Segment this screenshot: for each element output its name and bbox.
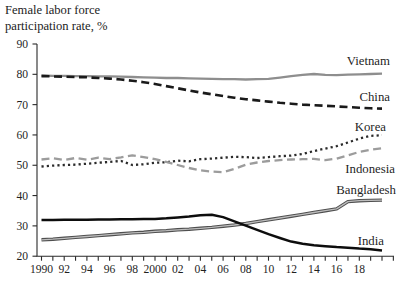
- label-korea: Korea: [355, 120, 387, 134]
- x-tick-label: 92: [58, 263, 70, 276]
- y-tick-label: 50: [16, 159, 28, 172]
- label-bangladesh: Bangladesh: [336, 183, 396, 197]
- y-tick-label: 40: [16, 190, 28, 203]
- x-tick-label: 94: [81, 263, 93, 276]
- x-tick-label: 02: [172, 263, 184, 276]
- y-tick-label: 20: [16, 250, 28, 263]
- x-tick-label: 14: [308, 263, 320, 276]
- x-tick-label: 2000: [143, 263, 166, 276]
- line-china: [42, 76, 383, 109]
- label-indonesia: Indonesia: [345, 162, 395, 176]
- chart-figure: Female labor force participation rate, %…: [0, 0, 399, 288]
- line-india: [42, 215, 383, 251]
- x-tick-label: 96: [104, 263, 116, 276]
- x-tick-label: 98: [127, 263, 139, 276]
- x-tick-label: 16: [331, 263, 343, 276]
- x-tick-label: 04: [195, 263, 207, 276]
- y-tick-label: 80: [16, 68, 28, 81]
- line-korea: [42, 135, 383, 166]
- line-chart-canvas: 2030405060708090199092949698200002040608…: [0, 0, 399, 288]
- y-tick-label: 70: [16, 99, 28, 112]
- x-axis-ticks: 1990929496982000020406081012141618: [30, 256, 393, 276]
- line-indonesia: [42, 148, 383, 172]
- label-india: India: [358, 234, 385, 248]
- x-tick-label: 10: [263, 263, 275, 276]
- x-tick-label: 18: [354, 263, 366, 276]
- label-vietnam: Vietnam: [347, 54, 390, 68]
- x-tick-label: 06: [217, 263, 229, 276]
- y-axis-ticks: 2030405060708090: [16, 38, 37, 263]
- x-tick-label: 12: [285, 263, 297, 276]
- x-tick-label: 08: [240, 263, 252, 276]
- y-tick-label: 60: [16, 129, 28, 142]
- y-tick-label: 30: [16, 220, 28, 233]
- label-china: China: [359, 90, 390, 104]
- x-tick-label: 1990: [30, 263, 53, 276]
- y-tick-label: 90: [16, 38, 28, 51]
